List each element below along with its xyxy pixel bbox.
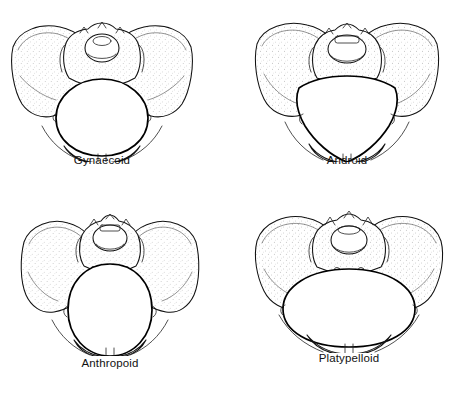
android-pelvis-drawing	[247, 14, 447, 162]
anthropoid-pelvis-drawing	[10, 208, 210, 356]
pelvic-inlet-brim	[283, 269, 415, 347]
pelvic-inlet-brim	[56, 79, 148, 156]
pelvic-types-figure: Gynaecoid	[0, 0, 463, 396]
sacral-promontory	[85, 34, 119, 62]
pelvis-caption-gynaecoid: Gynaecoid	[2, 154, 202, 166]
pelvis-panel-android: Android	[247, 14, 447, 189]
sacral-promontory	[93, 225, 127, 251]
pelvis-caption-android: Android	[247, 154, 447, 166]
sacral-promontory	[328, 35, 366, 63]
pelvis-panel-platypelloid: Platypelloid	[249, 205, 449, 380]
sacral-promontory	[331, 226, 367, 254]
platypelloid-pelvis-drawing	[249, 205, 449, 353]
pelvis-panel-anthropoid: Anthropoid	[10, 208, 210, 383]
pelvis-panel-gynaecoid: Gynaecoid	[2, 14, 202, 189]
pelvis-caption-anthropoid: Anthropoid	[10, 357, 210, 369]
pelvic-inlet-brim	[68, 264, 152, 356]
pelvis-caption-platypelloid: Platypelloid	[249, 352, 449, 364]
gynaecoid-pelvis-drawing	[2, 14, 202, 162]
